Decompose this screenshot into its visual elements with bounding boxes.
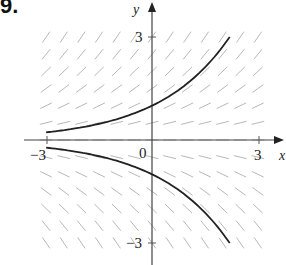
slope-segment	[254, 49, 262, 59]
slope-segment	[113, 32, 120, 43]
slope-segment	[57, 121, 70, 124]
slope-segment	[253, 67, 262, 76]
slope-segment	[113, 221, 121, 231]
slope-segment	[129, 103, 141, 109]
slope-segment	[40, 121, 53, 124]
slope-segment	[113, 49, 121, 59]
slope-segment	[182, 172, 194, 178]
slope-segment	[77, 67, 86, 76]
slope-segment	[41, 188, 52, 196]
slope-segment	[41, 204, 50, 213]
slope-segment	[217, 103, 229, 109]
slope-segment	[254, 238, 261, 249]
direction-field-figure: 9. y x 3 −3 −3 3 0	[0, 0, 286, 265]
slope-segment	[184, 238, 191, 249]
slope-segment	[166, 49, 174, 59]
slope-segment	[130, 221, 138, 231]
slope-segment	[183, 221, 191, 231]
slope-segment	[164, 103, 176, 109]
slope-segment	[236, 67, 245, 76]
slope-segment	[166, 32, 173, 43]
slope-segment	[219, 238, 226, 249]
slope-segment	[163, 121, 176, 124]
slope-segment	[201, 32, 208, 43]
slope-segment	[129, 188, 140, 196]
slope-segment	[252, 172, 264, 178]
slope-segment	[111, 103, 123, 109]
slope-segment	[41, 67, 50, 76]
slope-segment	[163, 156, 176, 159]
slope-segment	[77, 49, 85, 59]
slope-segment	[78, 32, 85, 43]
slope-segment	[94, 67, 103, 76]
slope-segment	[217, 85, 228, 93]
slope-segment	[60, 221, 68, 231]
slope-segment	[252, 121, 265, 124]
slope-segment	[218, 204, 227, 213]
slope-segment	[216, 121, 229, 124]
slope-segment	[95, 32, 102, 43]
slope-segment	[181, 156, 194, 159]
slope-segment	[42, 221, 50, 231]
slope-segment	[94, 188, 105, 196]
slope-segment	[60, 49, 68, 59]
slope-segment	[77, 221, 85, 231]
origin-label: 0	[139, 145, 147, 161]
slope-segment	[165, 67, 174, 76]
slope-segment	[110, 156, 123, 159]
slope-segment	[199, 121, 212, 124]
x-tick-label-max: 3	[254, 147, 262, 163]
slope-segment	[166, 221, 174, 231]
slope-segment	[166, 238, 173, 249]
plot-area: y x 3 −3 −3 3 0	[0, 0, 286, 265]
y-axis-label: y	[131, 2, 140, 17]
upper-solution-curve	[46, 37, 230, 132]
slope-segment	[75, 156, 88, 159]
lower-solution-curve	[46, 148, 230, 243]
slope-segment	[218, 67, 227, 76]
slope-segment	[234, 103, 246, 109]
slope-segment	[253, 204, 262, 213]
slope-segment	[113, 238, 120, 249]
slope-segment	[59, 67, 68, 76]
x-axis-label: x	[278, 148, 286, 163]
slope-segment	[201, 238, 208, 249]
slope-segment	[112, 204, 121, 213]
slope-segment	[59, 85, 70, 93]
slope-segment	[112, 67, 121, 76]
slope-segment	[181, 121, 194, 124]
slope-segment	[183, 49, 191, 59]
slope-segment	[94, 85, 105, 93]
y-tick-label-max: 3	[135, 29, 143, 45]
x-axis-arrow-icon	[274, 136, 284, 144]
slope-segment	[76, 188, 87, 196]
slope-segment	[236, 221, 244, 231]
slope-segment	[217, 188, 228, 196]
slope-segment	[94, 204, 103, 213]
slope-segment	[93, 172, 105, 178]
slope-segment	[111, 85, 122, 93]
slope-segment	[164, 172, 176, 178]
slope-segment	[111, 172, 123, 178]
slope-segment	[40, 103, 52, 109]
y-tick-label-min: −3	[126, 235, 142, 251]
slope-segment	[253, 85, 264, 93]
slope-segment	[60, 238, 67, 249]
slope-segment	[184, 32, 191, 43]
slope-segment	[57, 156, 70, 159]
slope-segment	[42, 49, 50, 59]
slope-segment	[217, 172, 229, 178]
slope-segment	[78, 238, 85, 249]
slope-segment	[165, 204, 174, 213]
slope-segment	[41, 85, 52, 93]
slope-segment	[93, 103, 105, 109]
slope-segment	[111, 188, 122, 196]
slope-segment	[236, 204, 245, 213]
slope-segment	[129, 85, 140, 93]
slope-segment	[235, 85, 246, 93]
slope-segment	[129, 172, 141, 178]
slope-segment	[58, 172, 70, 178]
slope-segment	[95, 238, 102, 249]
slope-segment	[237, 238, 244, 249]
slope-segment	[130, 67, 139, 76]
